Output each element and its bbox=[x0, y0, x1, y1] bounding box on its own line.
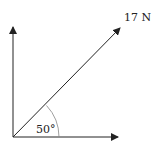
force-diagram: 17 N 50° bbox=[0, 0, 155, 149]
force-label: 17 N bbox=[124, 11, 151, 24]
angle-label: 50° bbox=[36, 123, 56, 136]
force-vector-arrow bbox=[13, 28, 120, 137]
